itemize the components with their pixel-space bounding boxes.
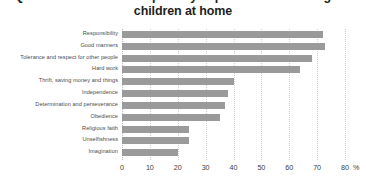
x-tick-label: 20 — [174, 163, 182, 173]
bar-row: Determination and perseverance — [122, 100, 366, 112]
bar-row: Good manners — [122, 41, 366, 53]
x-tick-label: 70 — [313, 163, 321, 173]
category-label: Thrift, saving money and things — [39, 76, 118, 84]
bar-row: Obedience — [122, 112, 366, 124]
x-tick-label: 40 — [230, 163, 238, 173]
bar — [122, 90, 228, 97]
category-label: Hard work — [92, 64, 118, 72]
chart-title-line-2: children at home — [0, 4, 366, 19]
category-label: Unselfishness — [83, 135, 118, 143]
bar-row: Tolerance and respect for other people — [122, 53, 366, 65]
plot-area: ResponsibilityGood mannersTolerance and … — [122, 29, 345, 160]
chart-page: Qualities considered especially importan… — [0, 0, 366, 192]
category-label: Responsibility — [83, 29, 118, 37]
category-label: Imagination — [89, 147, 118, 155]
bar-row: Responsibility — [122, 29, 366, 41]
bar-row: Hard work — [122, 64, 366, 76]
bar — [122, 102, 225, 109]
bar — [122, 55, 312, 62]
chart-title: Qualities considered especially importan… — [0, 0, 366, 19]
category-label: Religious faith — [82, 124, 118, 132]
bar-row: Imagination — [122, 147, 366, 159]
x-tick-label: 80 — [341, 163, 349, 173]
bar — [122, 149, 178, 156]
x-axis-unit-label: % — [353, 163, 359, 173]
bar — [122, 43, 325, 50]
x-tick-label: 50 — [257, 163, 265, 173]
bar — [122, 137, 189, 144]
x-tick-label: 10 — [146, 163, 154, 173]
bar-row: Thrift, saving money and things — [122, 76, 366, 88]
bar — [122, 78, 234, 85]
bar — [122, 66, 300, 73]
x-axis: 01020304050607080% — [122, 163, 366, 179]
bar — [122, 31, 323, 38]
bar-row: Religious faith — [122, 124, 366, 136]
bar-row: Independence — [122, 88, 366, 100]
category-label: Independence — [82, 88, 118, 96]
category-label: Tolerance and respect for other people — [20, 53, 118, 61]
bar — [122, 114, 220, 121]
bar-row: Unselfishness — [122, 135, 366, 147]
category-label: Good manners — [80, 41, 118, 49]
x-tick-label: 0 — [120, 163, 124, 173]
category-label: Obedience — [90, 112, 118, 120]
category-label: Determination and perseverance — [35, 100, 118, 108]
x-tick-label: 60 — [285, 163, 293, 173]
bar — [122, 126, 189, 133]
x-tick-label: 30 — [202, 163, 210, 173]
